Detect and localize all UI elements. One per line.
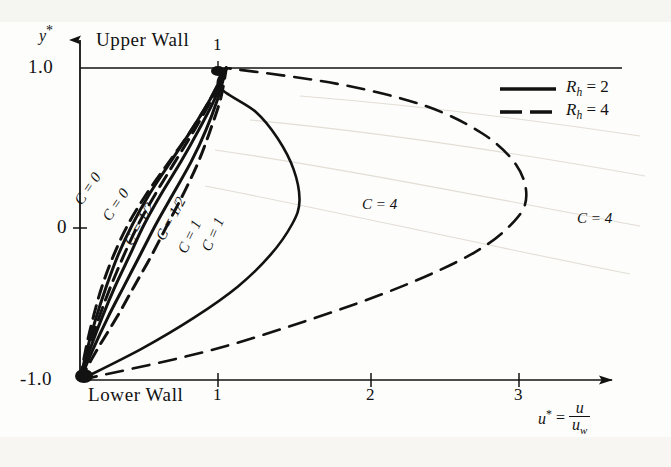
apex-ink-blob: [211, 66, 225, 76]
apex-tick-label: 1: [213, 36, 222, 53]
x-axis-fraction-denominator: uw: [569, 416, 590, 436]
lower-wall-label: Lower Wall: [88, 385, 183, 404]
legend-item-rh2: Rh = 2: [566, 78, 609, 99]
origin-ink-blob: [75, 369, 93, 383]
c4-label-1: C = 4: [577, 211, 612, 226]
legend-rh2-value: = 2: [586, 77, 608, 96]
x-axis-u: u*: [538, 408, 552, 427]
x-axis-equals: =: [556, 410, 565, 426]
x-tick-label-2: 2: [366, 386, 375, 403]
x-axis-fraction-numerator: u: [569, 400, 590, 416]
legend-rh4-symbol: Rh: [566, 100, 582, 119]
legend-swatches: [500, 89, 556, 112]
legend-rh2-symbol: Rh: [566, 77, 582, 96]
x-axis-label: u* = u uw: [538, 400, 590, 436]
x-tick-label-3: 3: [514, 386, 523, 403]
upper-wall-label: Upper Wall: [96, 30, 189, 49]
y-tick-label-mid: 0: [57, 217, 67, 236]
ghost-bleedthrough: [205, 96, 645, 274]
y-axis-label: y*: [39, 24, 53, 44]
figure-container: y* 1.0 0 -1.0 Upper Wall Lower Wall 1 1 …: [0, 0, 671, 467]
legend-item-rh4: Rh = 4: [566, 101, 609, 122]
legend-rh4-value: = 4: [586, 100, 608, 119]
axis-lines: [73, 40, 622, 387]
y-axis-star: *: [46, 23, 53, 38]
c4-label-0: C = 4: [362, 197, 397, 212]
y-tick-label-bottom: -1.0: [20, 369, 52, 388]
x-axis-fraction: u uw: [569, 400, 590, 436]
y-tick-label-top: 1.0: [28, 57, 53, 76]
x-tick-label-1: 1: [213, 386, 222, 403]
